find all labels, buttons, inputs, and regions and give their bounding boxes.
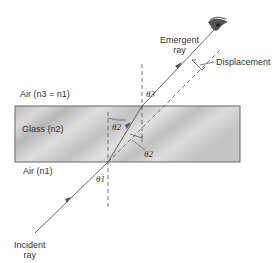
refraction-diagram: Emergent ray Displacement Air (n3 = n1) … <box>0 0 278 263</box>
eye-icon <box>208 17 228 30</box>
theta2-label-b: θ2 <box>144 149 153 159</box>
glass-label: Glass (n2) <box>22 124 64 134</box>
air-top-label: Air (n3 = n1) <box>20 89 70 99</box>
displacement-label: Displacement <box>216 57 271 67</box>
air-bottom-label: Air (n1) <box>23 166 53 176</box>
incident-ray-label: Incident ray <box>14 240 46 260</box>
theta1-label: θ1 <box>96 174 105 184</box>
theta2-label-a: θ2 <box>112 122 121 132</box>
emergent-ray-label: Emergent ray <box>160 35 199 55</box>
incident-arrow <box>65 197 71 203</box>
theta3-label: θ3 <box>146 89 155 99</box>
glass-slab <box>15 106 240 162</box>
